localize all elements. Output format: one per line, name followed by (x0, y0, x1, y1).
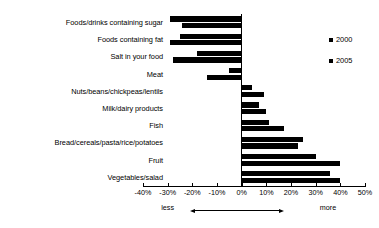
x-axis-tick-label: 50% (358, 189, 372, 196)
legend-swatch-icon (329, 59, 333, 63)
x-axis-tick-label: -40% (135, 189, 152, 196)
x-axis-tick-label: 30% (308, 189, 322, 196)
direction-label-less: less (161, 204, 174, 211)
bar-2005 (170, 40, 242, 45)
bar-2005 (242, 143, 299, 148)
x-axis-tick-label: 0% (236, 189, 246, 196)
bar-2000 (242, 171, 331, 176)
bar-group (143, 100, 365, 117)
x-axis-tick-label: -10% (209, 189, 226, 196)
x-axis-tick-label: 10% (259, 189, 273, 196)
bar-2005 (242, 126, 284, 131)
bar-group (143, 83, 365, 100)
legend: 2000 2005 (329, 36, 377, 79)
zero-axis-line (241, 14, 243, 186)
direction-label-more: more (320, 204, 336, 211)
bar-2005 (242, 92, 264, 97)
bar-2005 (242, 109, 267, 114)
x-axis-tick (217, 183, 218, 187)
x-axis-tick-label: -20% (184, 189, 201, 196)
x-axis-tick (192, 183, 193, 187)
bar-group (143, 152, 365, 169)
x-axis-tick-label: 20% (284, 189, 298, 196)
bar-2000 (242, 120, 269, 125)
legend-label: 2005 (336, 57, 352, 64)
bar-2000 (242, 137, 304, 142)
x-axis-tick-label: 40% (333, 189, 347, 196)
bar-2005 (242, 161, 341, 166)
bar-2005 (173, 57, 242, 62)
bar-2005 (207, 75, 242, 80)
x-axis-ticks (143, 183, 365, 187)
direction-indicator-row: less more (143, 203, 365, 217)
bar-2000 (229, 68, 241, 73)
legend-item-2005: 2005 (329, 57, 377, 64)
legend-item-2000: 2000 (329, 36, 377, 43)
x-axis-tick (242, 183, 243, 187)
x-axis-tick (316, 183, 317, 187)
x-axis-tick-labels: -40%-30%-20%-10%0%10%20%30%40%50% (143, 189, 365, 201)
x-axis-tick (143, 183, 144, 187)
bar-group (143, 14, 365, 31)
legend-swatch-icon (329, 38, 333, 42)
x-axis-tick (365, 183, 366, 187)
bar-2000 (242, 154, 316, 159)
bar-2005 (182, 23, 241, 28)
bar-2000 (242, 102, 259, 107)
bar-group (143, 117, 365, 134)
x-axis-tick (168, 183, 169, 187)
x-axis-tick (340, 183, 341, 187)
bar-2000 (242, 85, 252, 90)
bar-2000 (170, 16, 242, 21)
bar-2000 (180, 34, 242, 39)
bar-2000 (197, 51, 241, 56)
bar-group (143, 134, 365, 151)
x-axis-tick (291, 183, 292, 187)
x-axis-tick (266, 183, 267, 187)
x-axis-tick-label: -30% (159, 189, 176, 196)
bar-chart: Foods/drinks containing sugar Foods cont… (0, 0, 379, 228)
legend-label: 2000 (336, 36, 352, 43)
direction-double-arrow-icon (190, 208, 284, 214)
